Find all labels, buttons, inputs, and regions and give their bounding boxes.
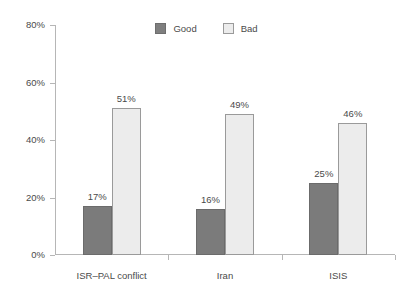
bar-good-2 [309,183,338,255]
bar-bad-0 [112,108,141,255]
y-axis-tick [50,255,55,256]
bar-good-0 [83,206,112,255]
x-axis-tick [395,255,396,260]
y-axis-tick [50,198,55,199]
y-axis-tick-label: 0% [3,249,45,260]
x-axis-category-label: ISR–PAL conflict [77,270,147,281]
y-axis-tick [50,140,55,141]
bar-value-label: 51% [106,93,147,104]
bar-value-label: 49% [219,99,260,110]
y-axis-tick [50,83,55,84]
y-axis-tick-label: 80% [3,19,45,30]
y-axis-tick-label: 20% [3,192,45,203]
bar-bad-2 [338,123,367,255]
y-axis-tick-label: 40% [3,134,45,145]
y-axis-line [55,25,56,255]
x-axis-category-label: ISIS [329,270,347,281]
x-axis-tick [168,255,169,260]
bar-chart: Good Bad 0%20%40%60%80% 17%51%16%49%25%4… [0,0,413,295]
y-axis-tick-label: 60% [3,77,45,88]
bar-good-1 [196,209,225,255]
x-axis-category-label: Iran [217,270,233,281]
plot-area: 0%20%40%60%80% 17%51%16%49%25%46% [55,25,395,255]
x-axis-tick [282,255,283,260]
y-axis-tick [50,25,55,26]
bar-bad-1 [225,114,254,255]
bar-value-label: 46% [332,108,373,119]
